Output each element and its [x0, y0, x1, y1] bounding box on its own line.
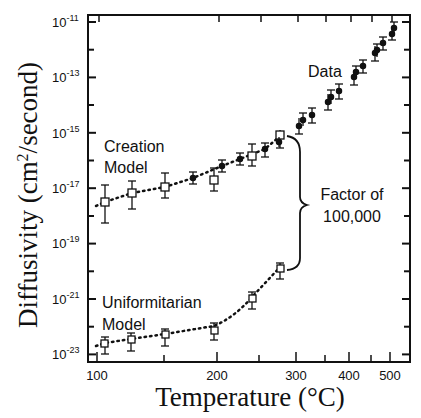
- uniformitarian-model-label-line2: Model: [102, 316, 146, 333]
- factor-brace: [287, 136, 307, 270]
- svg-text:10-11: 10-11: [52, 13, 79, 30]
- y-axis-title: Diffusivity (cm2/second): [13, 62, 43, 328]
- x-tick-labels: 100 200 300 400 500: [86, 368, 401, 383]
- svg-text:100: 100: [86, 368, 108, 383]
- svg-text:10-15: 10-15: [52, 124, 79, 141]
- data-points: [189, 22, 398, 184]
- svg-text:300: 300: [285, 368, 307, 383]
- x-axis-title: Temperature (°C): [155, 382, 345, 412]
- factor-label-line2: 100,000: [323, 208, 381, 225]
- svg-text:500: 500: [379, 368, 401, 383]
- diffusivity-chart: 10-11 10-13 10-15 10-17 10-19 10-21 10-2…: [0, 0, 421, 418]
- svg-text:10-21: 10-21: [52, 290, 79, 307]
- svg-text:10-19: 10-19: [52, 234, 79, 251]
- svg-text:10-17: 10-17: [52, 179, 79, 196]
- svg-text:10-23: 10-23: [52, 345, 79, 362]
- y-tick-labels: 10-11 10-13 10-15 10-17 10-19 10-21 10-2…: [52, 13, 79, 362]
- data-label: Data: [308, 63, 342, 80]
- svg-text:10-13: 10-13: [52, 68, 79, 85]
- factor-label-line1: Factor of: [320, 186, 384, 203]
- svg-text:200: 200: [206, 368, 228, 383]
- uniformitarian-model-label-line1: Uniformitarian: [102, 294, 202, 311]
- creation-model-label-line2: Model: [104, 159, 148, 176]
- svg-text:400: 400: [338, 368, 360, 383]
- creation-model-label-line1: Creation: [104, 138, 164, 155]
